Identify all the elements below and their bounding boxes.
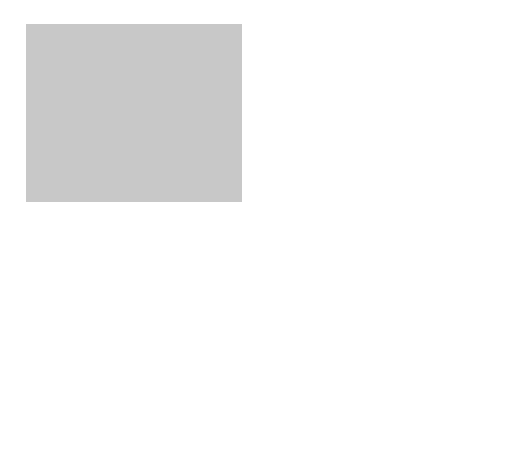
diagram-canvas xyxy=(0,0,530,458)
